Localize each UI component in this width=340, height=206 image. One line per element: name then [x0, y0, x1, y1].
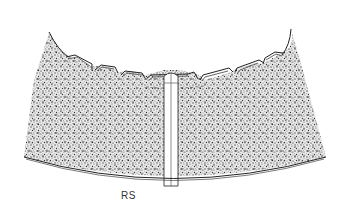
center-slot [164, 73, 178, 186]
cross-section-diagram [0, 0, 340, 206]
figure-label: RS [121, 190, 136, 201]
